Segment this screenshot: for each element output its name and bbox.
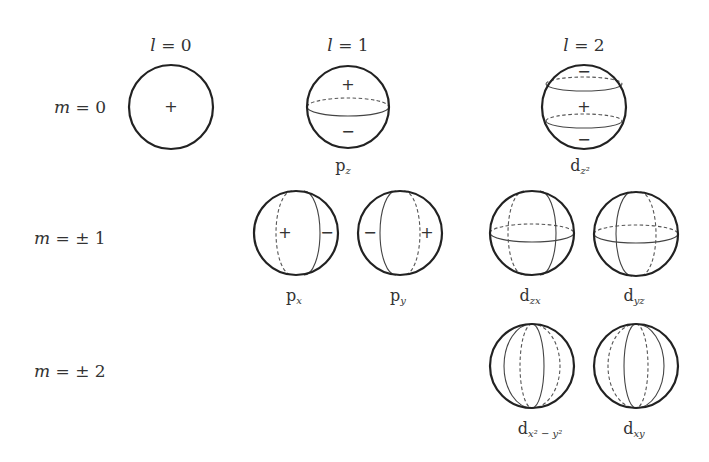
row-label-m0: m = 0 bbox=[54, 97, 106, 117]
orbital-label-px: px bbox=[286, 286, 302, 306]
orbital-label-dzx: dzx bbox=[519, 286, 541, 306]
sign-plus: + bbox=[164, 97, 177, 116]
orbital-label-dx2-y2: dx² − y² bbox=[518, 419, 562, 439]
sign-plus: + bbox=[420, 223, 433, 242]
orbital-dz2: − + − dz² bbox=[542, 62, 626, 176]
orbital-dzx: dzx bbox=[490, 191, 574, 306]
row-label-m2: m = ± 2 bbox=[34, 361, 106, 381]
orbital-px: + − px bbox=[254, 191, 338, 306]
row-label-m1: m = ± 1 bbox=[34, 228, 106, 248]
orbital-pz: + − pz bbox=[307, 66, 389, 176]
sign-minus: − bbox=[363, 223, 376, 242]
header-l1: l = 1 bbox=[327, 35, 368, 55]
orbital-label-dxy: dxy bbox=[623, 419, 645, 439]
orbital-label-py: py bbox=[390, 286, 406, 306]
sign-minus: − bbox=[577, 130, 590, 149]
header-l0: l = 0 bbox=[150, 35, 191, 55]
orbital-dx2-y2: dx² − y² bbox=[490, 324, 574, 439]
orbital-dyz: dyz bbox=[594, 192, 678, 306]
orbital-py: − + py bbox=[358, 191, 442, 306]
orbital-label-dz2: dz² bbox=[570, 156, 590, 176]
orbital-label-dyz: dyz bbox=[623, 286, 645, 306]
sign-minus: − bbox=[341, 122, 354, 141]
sign-plus: + bbox=[278, 223, 291, 242]
sign-minus: − bbox=[320, 223, 333, 242]
sign-minus: − bbox=[577, 62, 590, 81]
orbital-s: + bbox=[129, 65, 213, 149]
sign-plus: + bbox=[577, 97, 590, 116]
sign-plus: + bbox=[341, 75, 354, 94]
orbital-dxy: dxy bbox=[594, 324, 678, 439]
orbital-diagram: l = 0 l = 1 l = 2 m = 0 m = ± 1 m = ± 2 … bbox=[0, 0, 709, 462]
header-l2: l = 2 bbox=[563, 35, 604, 55]
orbital-label-pz: pz bbox=[335, 156, 351, 176]
